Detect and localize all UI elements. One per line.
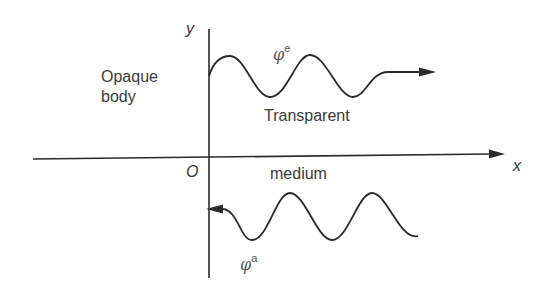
medium-label: medium <box>270 165 327 183</box>
y-axis-label: y <box>186 20 194 38</box>
phi-a-label: φa <box>240 254 257 274</box>
opaque-body-label-line2: body <box>101 88 136 106</box>
phi-a-symbol: φ <box>240 255 251 274</box>
emitted-wave-arrow-icon <box>419 68 436 77</box>
absorbed-wave <box>206 193 418 240</box>
transparent-label: Transparent <box>264 107 350 125</box>
x-axis-arrow-icon <box>489 150 505 159</box>
x-axis <box>33 150 505 160</box>
x-axis-label: x <box>513 157 521 175</box>
origin-label: O <box>186 163 198 181</box>
phi-e-superscript: e <box>284 42 290 54</box>
emitted-wave <box>209 55 436 97</box>
opaque-body-label-line1: Opaque <box>101 68 158 86</box>
phi-a-superscript: a <box>251 252 257 264</box>
phi-e-symbol: φ <box>273 45 284 64</box>
phi-e-label: φe <box>273 44 290 64</box>
